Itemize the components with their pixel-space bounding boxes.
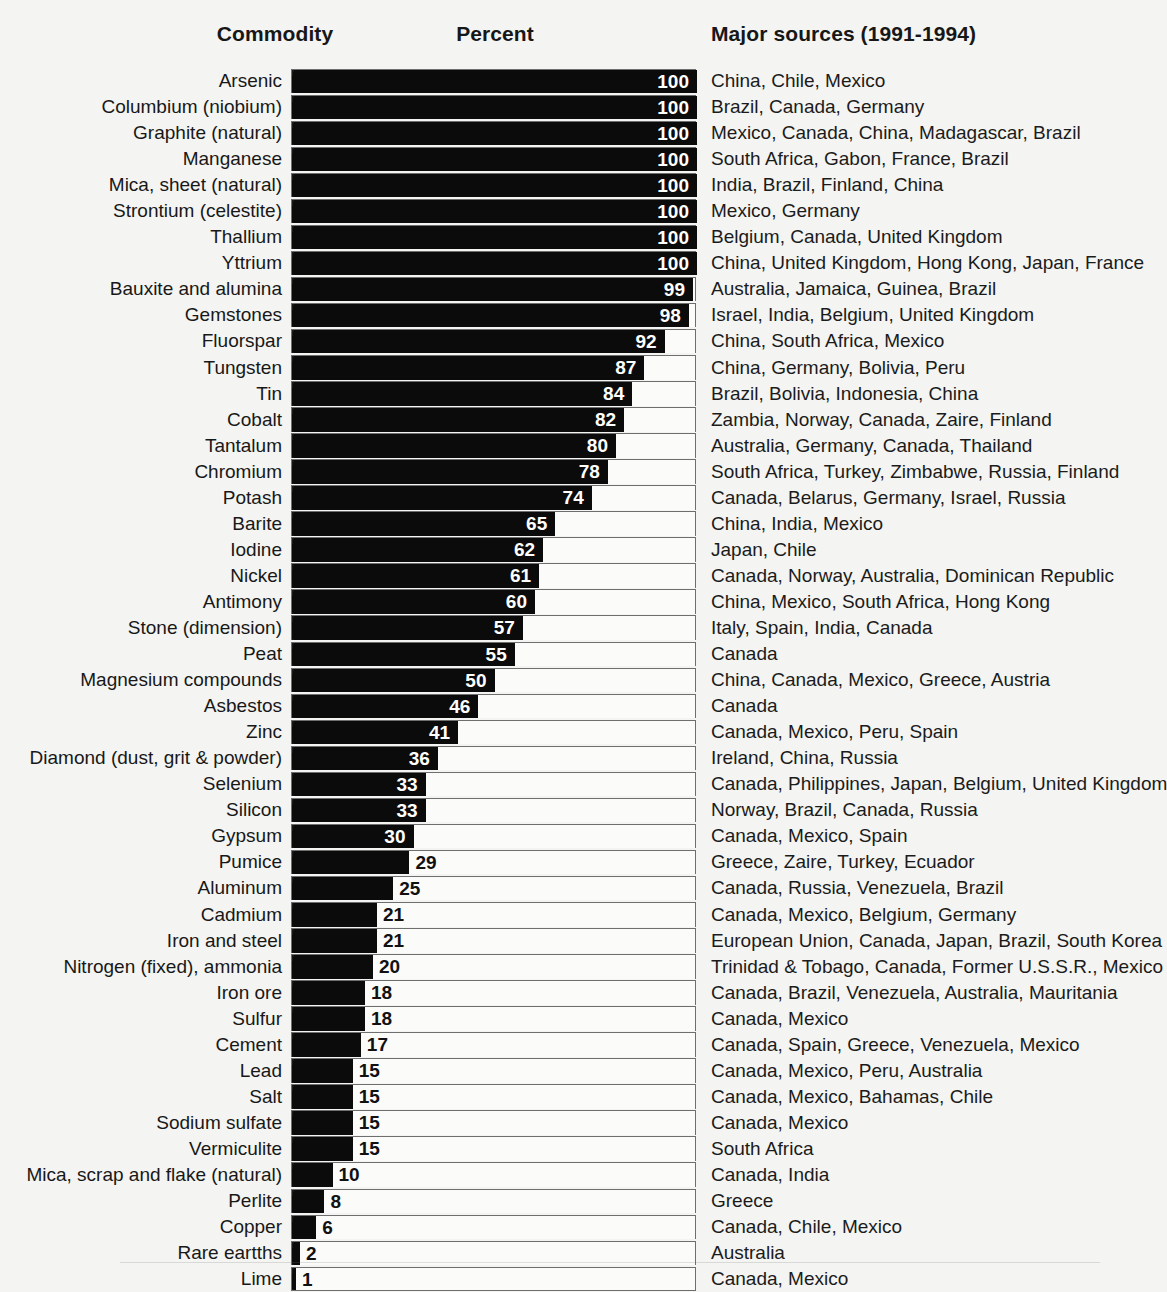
bar-track: 50 <box>291 668 696 693</box>
bar-track: 87 <box>291 355 696 380</box>
bar <box>292 70 697 94</box>
commodity-label: Fluorspar <box>202 328 282 354</box>
bar-track: 74 <box>291 485 696 510</box>
bar-track: 15 <box>291 1110 696 1135</box>
bar <box>292 1085 353 1109</box>
commodity-label: Thallium <box>210 224 282 250</box>
major-sources-text: China, India, Mexico <box>711 511 883 537</box>
major-sources-text: China, South Africa, Mexico <box>711 328 944 354</box>
bar-value-label: 20 <box>379 955 400 980</box>
import-reliance-bar-chart: Arsenic100China, Chile, MexicoColumbium … <box>0 68 1167 1292</box>
major-sources-text: India, Brazil, Finland, China <box>711 172 943 198</box>
bar <box>292 382 632 406</box>
commodity-label: Zinc <box>246 719 282 745</box>
bar-value-label: 61 <box>510 564 531 589</box>
major-sources-text: Zambia, Norway, Canada, Zaire, Finland <box>711 407 1052 433</box>
bar <box>292 929 377 953</box>
bar <box>292 538 543 562</box>
major-sources-text: Canada, Norway, Australia, Dominican Rep… <box>711 563 1114 589</box>
bar <box>292 434 616 458</box>
chart-row: Iron ore18Canada, Brazil, Venezuela, Aus… <box>0 980 1167 1006</box>
bar <box>292 226 697 250</box>
chart-row: Nitrogen (fixed), ammonia20Trinidad & To… <box>0 954 1167 980</box>
commodity-label: Gypsum <box>211 823 282 849</box>
bar-value-label: 99 <box>664 278 685 303</box>
chart-row: Tungsten87China, Germany, Bolivia, Peru <box>0 355 1167 381</box>
bar <box>292 512 555 536</box>
bar-track: 41 <box>291 720 696 745</box>
bar <box>292 330 665 354</box>
bar <box>292 408 624 432</box>
bar-value-label: 17 <box>367 1033 388 1058</box>
chart-row: Sulfur18Canada, Mexico <box>0 1006 1167 1032</box>
bar-value-label: 18 <box>371 981 392 1006</box>
bar-value-label: 65 <box>526 512 547 537</box>
major-sources-text: Norway, Brazil, Canada, Russia <box>711 797 978 823</box>
bar-value-label: 8 <box>330 1190 341 1215</box>
chart-row: Strontium (celestite)100Mexico, Germany <box>0 198 1167 224</box>
bar-track: 62 <box>291 537 696 562</box>
bar-track: 21 <box>291 902 696 927</box>
bar <box>292 1137 353 1161</box>
bar-track: 33 <box>291 772 696 797</box>
bar-track: 29 <box>291 850 696 875</box>
major-sources-text: Canada, Philippines, Japan, Belgium, Uni… <box>711 771 1167 797</box>
bar-track: 17 <box>291 1032 696 1057</box>
bar-value-label: 57 <box>494 616 515 641</box>
commodity-label: Nitrogen (fixed), ammonia <box>63 954 282 980</box>
chart-row: Zinc41Canada, Mexico, Peru, Spain <box>0 719 1167 745</box>
bar-track: 57 <box>291 615 696 640</box>
chart-row: Thallium100Belgium, Canada, United Kingd… <box>0 224 1167 250</box>
bar-value-label: 87 <box>615 356 636 381</box>
bar-value-label: 82 <box>595 408 616 433</box>
major-sources-text: Ireland, China, Russia <box>711 745 898 771</box>
chart-row: Columbium (niobium)100Brazil, Canada, Ge… <box>0 94 1167 120</box>
bar-value-label: 100 <box>657 200 689 225</box>
commodity-label: Iron ore <box>217 980 282 1006</box>
bar-track: 99 <box>291 277 696 302</box>
commodity-label: Diamond (dust, grit & powder) <box>30 745 282 771</box>
bar-track: 84 <box>291 381 696 406</box>
chart-row: Gypsum30Canada, Mexico, Spain <box>0 823 1167 849</box>
bar <box>292 877 393 901</box>
commodity-label: Tantalum <box>205 433 282 459</box>
bar-track: 6 <box>291 1215 696 1240</box>
footer-rule <box>120 1262 1100 1263</box>
chart-row: Lead15Canada, Mexico, Peru, Australia <box>0 1058 1167 1084</box>
major-sources-text: European Union, Canada, Japan, Brazil, S… <box>711 928 1162 954</box>
chart-row: Vermiculite15South Africa <box>0 1136 1167 1162</box>
bar <box>292 252 697 276</box>
bar <box>292 643 515 667</box>
commodity-label: Stone (dimension) <box>128 615 282 641</box>
major-sources-text: Canada, Mexico, Belgium, Germany <box>711 902 1016 928</box>
chart-row: Graphite (natural)100Mexico, Canada, Chi… <box>0 120 1167 146</box>
bar <box>292 1059 353 1083</box>
chart-row: Bauxite and alumina99Australia, Jamaica,… <box>0 276 1167 302</box>
bar-track: 30 <box>291 824 696 849</box>
bar <box>292 616 523 640</box>
bar-track: 25 <box>291 876 696 901</box>
chart-row: Cadmium21Canada, Mexico, Belgium, German… <box>0 902 1167 928</box>
commodity-label: Manganese <box>183 146 282 172</box>
bar-value-label: 33 <box>397 799 418 824</box>
chart-row: Yttrium100China, United Kingdom, Hong Ko… <box>0 250 1167 276</box>
bar-value-label: 98 <box>660 304 681 329</box>
bar-value-label: 15 <box>359 1059 380 1084</box>
bar-value-label: 33 <box>397 773 418 798</box>
major-sources-text: South Africa, Turkey, Zimbabwe, Russia, … <box>711 459 1119 485</box>
chart-row: Iron and steel21European Union, Canada, … <box>0 928 1167 954</box>
commodity-label: Yttrium <box>222 250 282 276</box>
major-sources-text: Canada <box>711 641 778 667</box>
chart-row: Mica, sheet (natural)100India, Brazil, F… <box>0 172 1167 198</box>
column-headers: Commodity Percent Major sources (1991-19… <box>0 22 1167 56</box>
chart-row: Potash74Canada, Belarus, Germany, Israel… <box>0 485 1167 511</box>
header-major-sources: Major sources (1991-1994) <box>711 22 976 46</box>
major-sources-text: China, Canada, Mexico, Greece, Austria <box>711 667 1050 693</box>
chart-row: Tantalum80Australia, Germany, Canada, Th… <box>0 433 1167 459</box>
bar-value-label: 100 <box>657 122 689 147</box>
major-sources-text: Canada, India <box>711 1162 829 1188</box>
commodity-label: Potash <box>223 485 282 511</box>
major-sources-text: South Africa <box>711 1136 813 1162</box>
bar-value-label: 36 <box>409 747 430 772</box>
bar <box>292 304 689 328</box>
